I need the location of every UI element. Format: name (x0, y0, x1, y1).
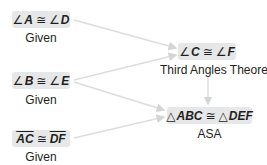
triangle-symbol: △ (219, 109, 228, 123)
congruent-symbol: ≅ (203, 45, 213, 59)
arrow-given2-to-asa (74, 82, 164, 110)
arrow-given1-to-third (74, 20, 176, 48)
angle-symbol: ∠ (13, 74, 24, 88)
reason-given-3: Given (12, 150, 70, 164)
statement-triangle-abc-congruent-def: △ABC≅△DEF (167, 107, 252, 124)
angle-symbol: ∠ (49, 74, 60, 88)
angle-symbol: ∠ (13, 13, 24, 27)
statement-segment-ac-congruent-df: AC≅DF (12, 130, 70, 147)
segment-df: DF (50, 132, 66, 146)
reason-given-1: Given (12, 31, 70, 45)
segment-ac: AC (16, 132, 33, 146)
congruent-symbol: ≅ (36, 13, 46, 27)
congruent-symbol: ≅ (205, 109, 215, 123)
rhs: DEF (229, 109, 253, 123)
statement-angle-c-congruent-f: ∠C≅∠F (178, 43, 236, 60)
congruent-symbol: ≅ (37, 132, 47, 146)
arrow-given3-to-asa (74, 117, 164, 138)
angle-symbol: ∠ (216, 45, 227, 59)
lhs: B (25, 74, 34, 88)
reason-given-2: Given (12, 93, 70, 107)
statement-angle-b-congruent-e: ∠B≅∠E (12, 72, 70, 89)
lhs: C (191, 45, 200, 59)
rhs: E (61, 74, 69, 88)
rhs: D (61, 13, 70, 27)
angle-symbol: ∠ (49, 13, 60, 27)
angle-symbol: ∠ (179, 45, 190, 59)
triangle-symbol: △ (166, 109, 175, 123)
reason-asa: ASA (167, 127, 252, 141)
reason-third-angles-theorem: Third Angles Theorem (160, 63, 254, 77)
congruent-symbol: ≅ (36, 74, 46, 88)
lhs: A (24, 13, 33, 27)
lhs: ABC (176, 109, 202, 123)
rhs: F (227, 45, 234, 59)
statement-angle-a-congruent-d: ∠A≅∠D (12, 11, 70, 28)
